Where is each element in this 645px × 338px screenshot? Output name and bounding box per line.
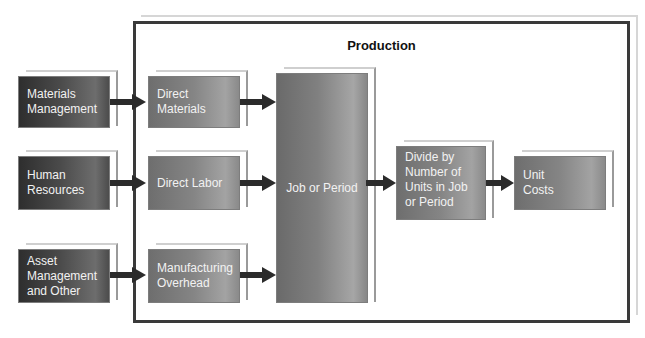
arrow-icon	[110, 175, 146, 191]
node-label-line: Manufacturing	[157, 261, 233, 276]
node-label-line: Costs	[523, 183, 554, 198]
node-label-line: Management	[27, 269, 101, 284]
node-label-line: Management	[27, 102, 97, 117]
arrow-icon	[240, 267, 276, 283]
arrow-icon	[366, 175, 396, 191]
node-label-line: or Period	[405, 195, 477, 210]
node-label-line: Asset	[27, 254, 101, 269]
node-label-line: Direct	[157, 87, 206, 102]
node-label-line: Human	[27, 168, 84, 183]
node-label-line: Number of	[405, 165, 477, 180]
node-label-line: Resources	[27, 183, 84, 198]
production-title: Production	[136, 38, 627, 53]
arrow-icon	[486, 175, 514, 191]
node-label-line: Direct Labor	[157, 176, 222, 191]
arrow-icon	[240, 175, 276, 191]
arrow-icon	[110, 94, 146, 110]
node-label-line: Materials	[157, 102, 206, 117]
node-label-line: and Other	[27, 284, 101, 299]
node-label-line: Overhead	[157, 276, 233, 291]
node-label-line: Materials	[27, 87, 97, 102]
node-label: Job or Period	[286, 181, 357, 196]
arrow-icon	[110, 267, 146, 283]
node-label-line: Unit	[523, 168, 554, 183]
node-label-line: Divide by	[405, 150, 477, 165]
arrow-icon	[240, 94, 276, 110]
node-label-line: Units in Job	[405, 180, 477, 195]
